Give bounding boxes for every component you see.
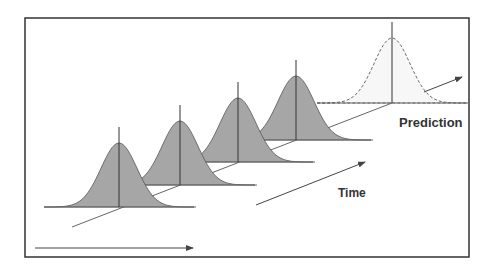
prediction-label: Prediction [399,115,463,130]
time-label: Time [338,186,366,200]
time-series-prediction-diagram: Prediction Time [0,0,493,271]
